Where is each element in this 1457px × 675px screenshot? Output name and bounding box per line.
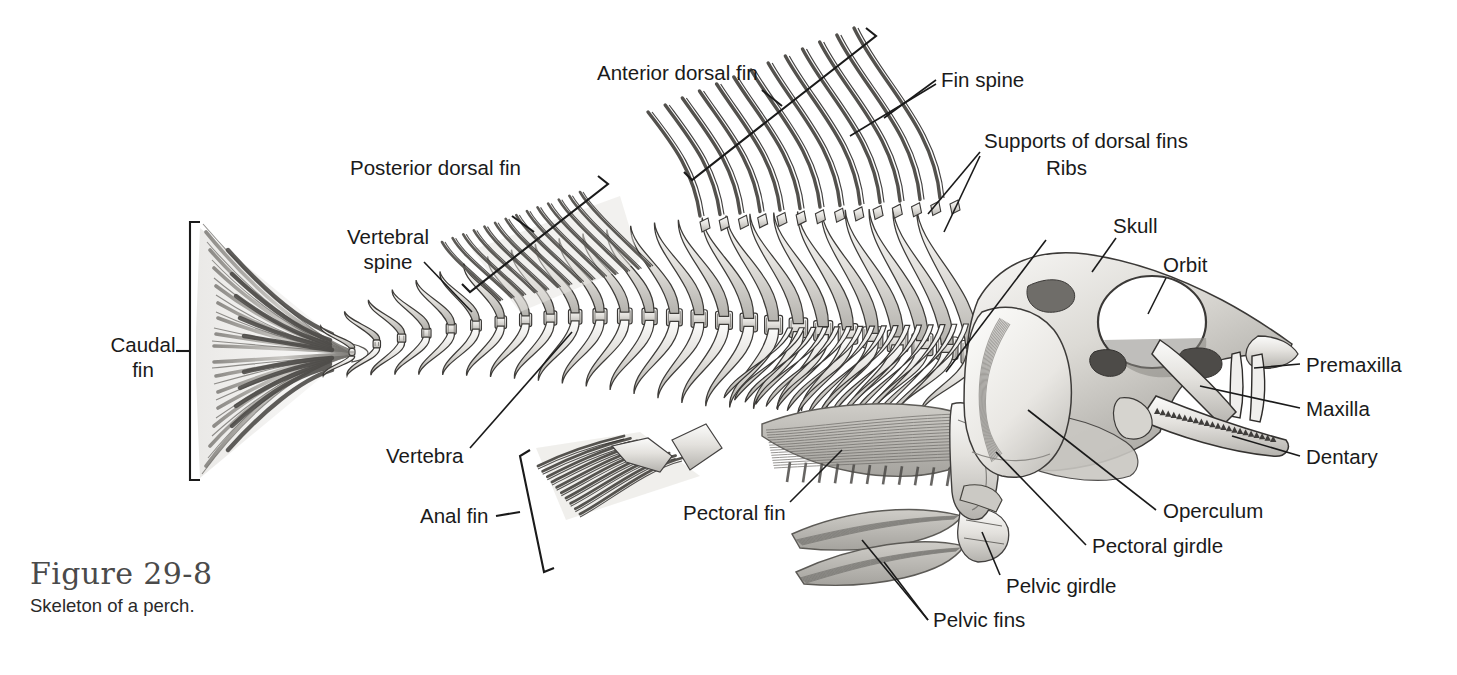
- label-operculum: Operculum: [1163, 498, 1263, 523]
- label-supports-of-dorsal-fins: Supports of dorsal fins: [984, 128, 1188, 153]
- label-anterior-dorsal-fin: Anterior dorsal fin: [597, 60, 758, 85]
- label-caudal-fin: Caudalfin: [104, 332, 182, 382]
- label-anal-fin: Anal fin: [420, 503, 488, 528]
- label-pectoral-fin: Pectoral fin: [683, 500, 786, 525]
- label-vertebral-spine: Vertebralspine: [340, 224, 436, 274]
- operculum-group: [964, 307, 1071, 477]
- label-pelvic-fins: Pelvic fins: [933, 607, 1025, 632]
- label-posterior-dorsal-fin: Posterior dorsal fin: [350, 155, 521, 180]
- perch-skeleton-illustration: [0, 0, 1457, 675]
- label-premaxilla: Premaxilla: [1306, 352, 1402, 377]
- label-vertebra: Vertebra: [386, 443, 464, 468]
- label-pectoral-girdle: Pectoral girdle: [1092, 533, 1223, 558]
- label-fin-spine: Fin spine: [941, 67, 1024, 92]
- label-ribs: Ribs: [1046, 155, 1087, 180]
- figure-caption: Figure 29-8 Skeleton of a perch.: [30, 556, 212, 617]
- label-dentary: Dentary: [1306, 444, 1378, 469]
- figure-subtitle: Skeleton of a perch.: [30, 595, 212, 617]
- label-orbit: Orbit: [1163, 252, 1207, 277]
- figure-number: Figure 29-8: [30, 556, 212, 591]
- label-pelvic-girdle: Pelvic girdle: [1006, 573, 1117, 598]
- figure-page: Anterior dorsal fin Fin spine Supports o…: [0, 0, 1457, 675]
- label-skull: Skull: [1113, 213, 1157, 238]
- label-maxilla: Maxilla: [1306, 396, 1370, 421]
